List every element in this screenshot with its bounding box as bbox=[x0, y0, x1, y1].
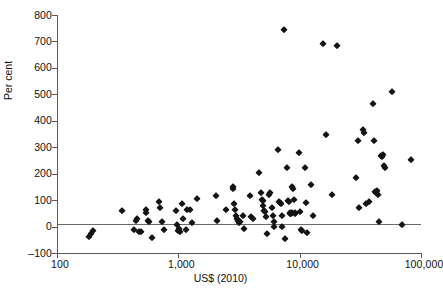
data-point bbox=[369, 101, 377, 109]
data-point bbox=[375, 219, 383, 227]
data-point bbox=[246, 193, 254, 201]
y-tick-label: –100 bbox=[6, 248, 52, 259]
data-point bbox=[301, 165, 309, 173]
data-point bbox=[271, 223, 279, 231]
data-point bbox=[303, 229, 311, 237]
y-tick-label-wrap: –100 bbox=[0, 248, 52, 259]
data-point bbox=[360, 130, 368, 138]
y-axis-title: Per cent bbox=[3, 61, 14, 100]
x-axis-title: US$ (2010) bbox=[0, 273, 441, 284]
data-point bbox=[370, 138, 378, 146]
y-tick-label-wrap: 400 bbox=[0, 115, 52, 126]
data-point bbox=[180, 215, 188, 223]
data-point bbox=[118, 207, 126, 215]
y-tick-label-wrap: 200 bbox=[0, 168, 52, 179]
data-point bbox=[354, 138, 362, 146]
data-point bbox=[295, 149, 303, 157]
data-point bbox=[148, 234, 156, 242]
data-point bbox=[352, 174, 360, 182]
data-point bbox=[172, 207, 180, 215]
data-point bbox=[186, 206, 194, 214]
data-point bbox=[388, 88, 396, 96]
x-tick-label: 100 bbox=[51, 259, 69, 270]
data-point bbox=[159, 218, 167, 226]
data-point bbox=[255, 169, 263, 177]
x-axis-line bbox=[57, 253, 421, 254]
data-point bbox=[268, 204, 276, 212]
data-point bbox=[407, 157, 415, 165]
x-tick-label: 100,000 bbox=[405, 259, 443, 270]
data-point bbox=[322, 131, 330, 139]
data-point bbox=[188, 220, 196, 228]
data-point bbox=[281, 235, 289, 243]
data-point bbox=[274, 147, 282, 155]
data-point bbox=[145, 219, 153, 227]
plot-area bbox=[57, 15, 421, 253]
data-point bbox=[182, 226, 190, 234]
data-point bbox=[156, 204, 164, 212]
y-tick-label: 300 bbox=[6, 142, 52, 153]
data-point bbox=[280, 27, 288, 35]
y-tick-label-wrap: 0 bbox=[0, 221, 52, 232]
data-point bbox=[222, 206, 230, 214]
data-point bbox=[398, 221, 406, 229]
data-point bbox=[319, 40, 327, 48]
x-tick-label: 10,000 bbox=[286, 259, 319, 270]
y-tick-label: 400 bbox=[6, 115, 52, 126]
data-point bbox=[263, 231, 271, 239]
y-tick-label: 700 bbox=[6, 36, 52, 47]
y-tick-label: 200 bbox=[6, 168, 52, 179]
data-point bbox=[193, 195, 201, 203]
data-point bbox=[277, 200, 285, 208]
y-tick-label-wrap: 800 bbox=[0, 10, 52, 21]
y-tick-label: 0 bbox=[6, 221, 52, 232]
data-point bbox=[310, 212, 318, 220]
data-point bbox=[334, 42, 342, 50]
data-point bbox=[308, 181, 316, 189]
data-point bbox=[328, 192, 336, 200]
data-point bbox=[278, 212, 286, 220]
data-point bbox=[279, 223, 287, 231]
data-point bbox=[212, 192, 220, 200]
data-point bbox=[283, 164, 291, 172]
y-tick-label: 800 bbox=[6, 10, 52, 21]
y-tick-label-wrap: 700 bbox=[0, 36, 52, 47]
y-tick-label-wrap: 100 bbox=[0, 195, 52, 206]
data-point bbox=[160, 226, 168, 234]
y-tick-label: 100 bbox=[6, 195, 52, 206]
data-point bbox=[302, 199, 310, 207]
data-point bbox=[374, 192, 382, 200]
data-point bbox=[214, 217, 222, 225]
data-point bbox=[241, 225, 249, 233]
x-tick-label: 1,000 bbox=[168, 259, 195, 270]
data-point bbox=[355, 204, 363, 212]
y-tick-label-wrap: 300 bbox=[0, 142, 52, 153]
